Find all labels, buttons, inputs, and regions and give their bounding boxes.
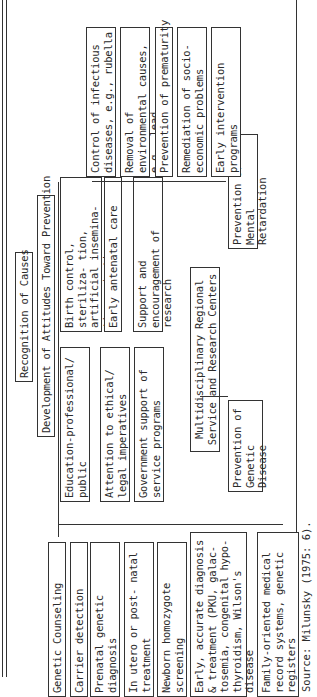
retardation-item-1: Control of infectious diseases, e.g., ru… (86, 27, 116, 177)
retardation-spine (92, 181, 226, 182)
reproductive-box-1: Birth control, steriliza- tion, artifici… (60, 177, 102, 332)
retardation-item-4: Remediation of socio- economic problems (177, 27, 207, 177)
societal-box-3: Government support of service programs (134, 347, 164, 502)
root-box: Recognition of Causes (15, 252, 33, 382)
center-box: Multidisciplinary Regional Service and R… (190, 267, 220, 452)
reproductive-box-2: Early antenatal care (104, 177, 122, 332)
retardation-item-3: Prevention of prematurity (155, 27, 173, 177)
retardation-item-5: Early intervention programs (211, 27, 241, 177)
frame-top-inner (6, 0, 7, 677)
genetic-item-2: Carrier detection (70, 542, 88, 697)
genetic-spine (58, 524, 283, 525)
genetic-item-7: Family-oriented medical record systems, … (257, 532, 299, 697)
genetic-item-3: Prenatal genetic diagnosis (90, 542, 120, 697)
frame-top (2, 0, 3, 677)
retardation-item-2: Removal of environmental causes, e.g., l… (120, 27, 150, 177)
main-spine (58, 182, 59, 537)
outcome-link (200, 396, 228, 397)
source-note: Source: Milunsky (1975: 6). (300, 521, 312, 692)
genetic-item-5: Newborn homozygote screening (157, 542, 187, 697)
attitudes-box: Development of Attitudes Toward Preventi… (37, 195, 55, 437)
genetic-item-4: In utero or post- natal treatment (124, 542, 154, 697)
societal-box-2: Attention to ethical/ legal imperatives (100, 347, 130, 502)
societal-box-1: Education-professional/ public (60, 347, 90, 502)
genetic-item-6: Early, accurate diagnosis & treatment (P… (190, 532, 247, 697)
prevention-diagram: Recognition of Causes Development of Att… (0, 0, 317, 697)
outcome-genetic-box: Prevention of Genetic Disease (228, 400, 263, 492)
reproductive-box-3: Support and encouragement of research (133, 177, 163, 332)
genetic-item-1: Genetic Counseling (48, 542, 66, 697)
